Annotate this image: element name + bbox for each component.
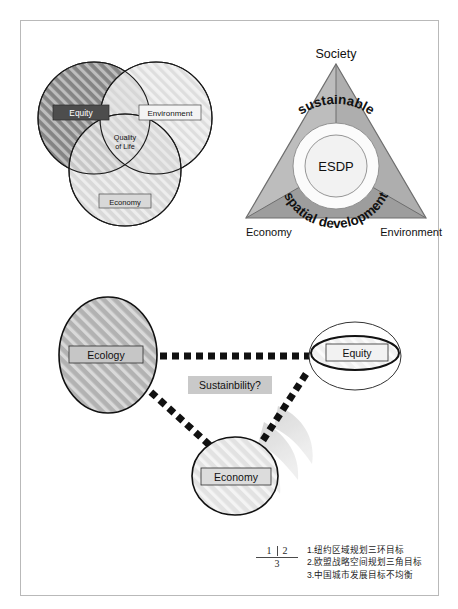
node-label-equity: Equity bbox=[342, 347, 372, 359]
triangle-label-environment: Environment bbox=[380, 226, 442, 238]
venn-label-economy: Economy bbox=[109, 198, 141, 207]
caption-line-2: 2.欧盟战略空间规划三角目标 bbox=[307, 556, 422, 568]
venn-label-environment: Environment bbox=[148, 109, 194, 118]
node-label-economy: Economy bbox=[214, 471, 259, 483]
triangle-label-economy: Economy bbox=[246, 226, 292, 238]
center-label-sustainability: Sustainbility? bbox=[199, 379, 261, 391]
venn-label-quality-of-life-line2: of Life bbox=[115, 142, 135, 151]
caption-text-list: 1.纽约区域规划三环目标 2.欧盟战略空间规划三角目标 3.中国城市发展目标不均… bbox=[307, 544, 422, 581]
figure-caption-block: 1 2 3 1.纽约区域规划三环目标 2.欧盟战略空间规划三角目标 3.中国城市… bbox=[256, 544, 441, 581]
figure-key-divider bbox=[277, 546, 278, 556]
venn-circle-economy bbox=[69, 114, 181, 226]
figure-key-2: 2 bbox=[283, 545, 288, 556]
figure-number-key: 1 2 3 bbox=[256, 544, 298, 570]
caption-line-3: 3.中国城市发展目标不均衡 bbox=[307, 569, 422, 581]
esdp-center-label: ESDP bbox=[318, 159, 353, 174]
figure-esdp-triangle: sustainable spatial development ESDP Soc… bbox=[228, 46, 444, 242]
figure-sustainability-triad: Ecology Equity Economy Sustainbility? bbox=[50, 288, 410, 523]
caption-line-1: 1.纽约区域规划三环目标 bbox=[307, 544, 422, 556]
figure-venn-diagram: Equity Environment Economy Quality of Li… bbox=[22, 52, 222, 242]
triangle-label-society: Society bbox=[316, 47, 358, 61]
figure-key-1: 1 bbox=[267, 545, 272, 556]
venn-label-equity: Equity bbox=[69, 108, 93, 118]
figure-key-3: 3 bbox=[256, 558, 298, 570]
node-label-ecology: Ecology bbox=[87, 349, 125, 361]
